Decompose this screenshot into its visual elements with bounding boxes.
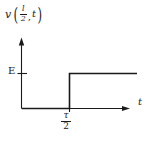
y-axis-function-label: v( l 2 ,t) xyxy=(5,5,43,23)
amplitude-label: E xyxy=(8,66,16,76)
y-axis-arrowhead xyxy=(19,38,24,46)
x-axis-variable-label: t xyxy=(138,97,142,107)
function-name: v xyxy=(5,9,11,20)
tau-denominator: 2 xyxy=(63,122,69,132)
tau-symbol: τ xyxy=(64,111,69,121)
close-paren: ) xyxy=(37,6,42,22)
time-argument: t xyxy=(32,9,36,19)
open-paren: ( xyxy=(13,6,18,22)
fraction-denominator: 2 xyxy=(20,15,27,24)
length-half-fraction: l 2 xyxy=(20,5,27,23)
step-waveform-curve xyxy=(22,74,137,109)
step-time-label: τ 2 xyxy=(61,111,71,131)
fraction-numerator: l xyxy=(21,5,26,14)
argument-comma: , xyxy=(28,12,31,23)
x-axis-arrowhead xyxy=(122,106,130,111)
step-function-figure: v( l 2 ,t) E τ 2 t xyxy=(0,0,151,141)
